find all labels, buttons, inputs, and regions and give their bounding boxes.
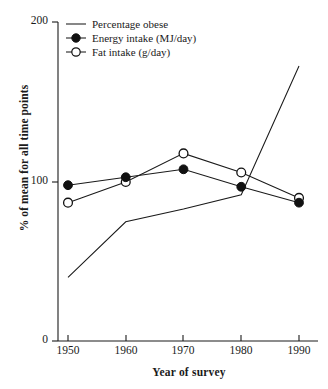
data-point-energy-intake [179,165,188,174]
series-markers-fat-intake [64,149,304,207]
data-point-energy-intake [237,182,246,191]
series-markers-energy-intake [64,165,304,207]
x-tick-label-1990: 1990 [276,344,322,356]
data-point-energy-intake [295,198,304,207]
x-tick-label-1970: 1970 [160,344,206,356]
chart-canvas [0,0,328,389]
x-tick-label-1950: 1950 [45,344,91,356]
data-point-fat-intake [64,198,73,207]
series-line-fat-intake [68,153,299,202]
data-point-energy-intake [64,181,73,190]
chart-figure: 200 100 0 1950 1960 1970 1980 1990 % of … [0,0,328,389]
y-tick-label-200: 200 [8,14,48,26]
legend-open-circle-icon [72,48,80,56]
data-point-fat-intake [179,149,188,158]
legend-label-percentage-obese: Percentage obese [92,18,168,30]
series-line-energy-intake [68,169,299,202]
x-axis-title: Year of survey [58,366,320,378]
legend-label-energy-intake: Energy intake (MJ/day) [92,32,196,44]
data-point-energy-intake [121,173,130,182]
x-tick-label-1960: 1960 [103,344,149,356]
legend-label-fat-intake: Fat intake (g/day) [92,46,170,58]
data-point-fat-intake [237,168,246,177]
y-tick-label-0: 0 [8,333,48,345]
legend-filled-circle-icon [72,34,80,42]
y-axis-title: % of mean for all time points [18,58,30,258]
x-tick-label-1980: 1980 [218,344,264,356]
